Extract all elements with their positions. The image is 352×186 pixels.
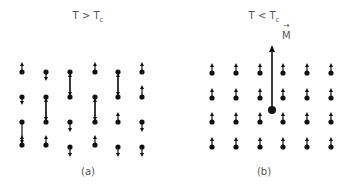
spin-arrow-random (139, 62, 144, 75)
spin-arrow-random (43, 98, 48, 125)
spin-arrow-random (19, 62, 24, 75)
spin-arrow-aligned (328, 88, 333, 101)
spin-arrow-aligned (233, 63, 238, 76)
spin-arrow-random (67, 144, 72, 157)
spin-arrow-aligned (209, 63, 214, 76)
spin-arrow-random (139, 85, 144, 100)
spin-arrow-aligned (304, 63, 309, 76)
spin-arrow-random (92, 62, 97, 75)
spin-arrow-aligned (328, 63, 333, 76)
spin-arrow-random (115, 144, 120, 157)
spin-arrow-random (67, 73, 72, 100)
spin-arrow-random (115, 73, 120, 100)
spin-arrow-random (92, 135, 97, 148)
spin-arrow-random (115, 112, 120, 125)
spin-arrow-aligned (328, 137, 333, 150)
spin-arrow-aligned (257, 112, 262, 125)
spin-arrow-aligned (280, 63, 285, 76)
spin-arrow-aligned (209, 88, 214, 101)
spin-arrow-random (19, 94, 24, 105)
spin-arrow-random (139, 119, 144, 132)
spin-arrow-random (43, 69, 48, 81)
spin-arrow-aligned (209, 137, 214, 150)
spin-arrow-random (92, 98, 97, 125)
spin-arrow-aligned (280, 112, 285, 125)
spin-arrow-random (67, 119, 72, 132)
magnetization-vector-arrow (268, 45, 276, 114)
spin-arrow-aligned (304, 137, 309, 150)
spin-arrow-aligned (233, 137, 238, 150)
spin-arrow-aligned (257, 88, 262, 101)
spin-arrow-aligned (257, 63, 262, 76)
spin-arrow-aligned (280, 137, 285, 150)
spin-arrow-aligned (304, 88, 309, 101)
spin-arrow-aligned (233, 112, 238, 125)
spin-arrow-aligned (280, 88, 285, 101)
spin-lattice-diagram (0, 0, 352, 186)
spin-arrow-aligned (328, 112, 333, 125)
spin-arrow-aligned (233, 88, 238, 101)
spin-arrow-aligned (209, 112, 214, 125)
spin-arrow-aligned (304, 112, 309, 125)
spin-arrow-aligned (257, 137, 262, 150)
spin-arrow-random (43, 135, 48, 148)
spin-arrow-random (139, 144, 144, 157)
spin-arrow-random (19, 135, 24, 148)
